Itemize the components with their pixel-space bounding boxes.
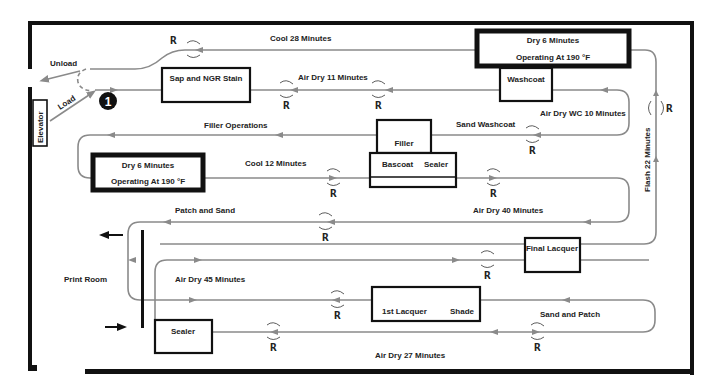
station-washcoat: Washcoat bbox=[500, 68, 552, 101]
rotation-marker: R bbox=[487, 169, 500, 200]
svg-text:R: R bbox=[270, 341, 277, 354]
rotation-marker: R bbox=[267, 323, 280, 354]
station-sealer-lower: Sealer bbox=[155, 320, 212, 353]
elevator: Elevator bbox=[33, 100, 47, 146]
station-bascoat-sealer: Bascoat Sealer bbox=[370, 153, 456, 187]
station-final-lacquer: Final Lacquer bbox=[525, 238, 580, 272]
svg-text:Dry 6 Minutes: Dry 6 Minutes bbox=[527, 36, 580, 45]
print-room: Print Room bbox=[64, 230, 144, 328]
rotation-marker: R bbox=[319, 213, 332, 244]
label-flash-22: Flash 22 Minutes bbox=[643, 127, 652, 192]
label-filler-operations: Filler Operations bbox=[204, 121, 268, 130]
finishing-line-diagram: Elevator bbox=[0, 0, 719, 391]
svg-text:Sealer: Sealer bbox=[171, 327, 195, 336]
label-air-dry-45: Air Dry 45 Minutes bbox=[175, 275, 246, 284]
station-filler: Filler bbox=[377, 120, 431, 153]
svg-text:R: R bbox=[490, 187, 497, 200]
start-marker-number: 1 bbox=[105, 95, 112, 109]
rotation-marker: R bbox=[531, 323, 544, 354]
label-air-dry-40: Air Dry 40 Minutes bbox=[473, 206, 544, 215]
svg-text:Dry 6 Minutes: Dry 6 Minutes bbox=[122, 161, 175, 170]
svg-text:R: R bbox=[529, 144, 536, 157]
label-air-dry-wc-10: Air Dry WC 10 Minutes bbox=[540, 109, 626, 118]
rotation-marker: R bbox=[649, 101, 674, 115]
station-oven-left: Dry 6 Minutes Operating At 190 °F bbox=[93, 155, 203, 190]
rotation-marker: R bbox=[280, 81, 293, 112]
label-sand-washcoat: Sand Washcoat bbox=[456, 120, 516, 129]
svg-text:R: R bbox=[375, 99, 382, 112]
svg-text:R: R bbox=[666, 102, 673, 115]
rotation-marker: R bbox=[372, 81, 385, 112]
start-marker: 1 bbox=[99, 92, 117, 110]
label-sand-and-patch: Sand and Patch bbox=[540, 310, 600, 319]
rotation-marker: R bbox=[526, 126, 539, 157]
label-patch-and-sand: Patch and Sand bbox=[175, 206, 235, 215]
rotation-marker: R bbox=[331, 291, 344, 322]
svg-text:Bascoat: Bascoat bbox=[382, 160, 413, 169]
station-first-lacquer-shade: 1st Lacquer Shade bbox=[372, 287, 480, 321]
svg-text:Washcoat: Washcoat bbox=[507, 75, 545, 84]
svg-text:Operating At 190 °F: Operating At 190 °F bbox=[516, 53, 590, 62]
svg-text:Final Lacquer: Final Lacquer bbox=[526, 244, 578, 253]
svg-text:R: R bbox=[334, 309, 341, 322]
load-unload-arrows: Unload Load bbox=[44, 59, 92, 121]
svg-text:R: R bbox=[170, 34, 177, 47]
label-cool-28: Cool 28 Minutes bbox=[270, 34, 332, 43]
label-air-dry-11: Air Dry 11 Minutes bbox=[298, 73, 368, 82]
svg-text:R: R bbox=[534, 341, 541, 354]
svg-text:Filler: Filler bbox=[394, 139, 413, 148]
print-room-label: Print Room bbox=[64, 275, 107, 284]
label-air-dry-27: Air Dry 27 Minutes bbox=[375, 351, 446, 360]
rotation-marker: R bbox=[481, 251, 494, 282]
svg-text:1st Lacquer: 1st Lacquer bbox=[382, 307, 427, 316]
rotation-marker: R bbox=[327, 169, 340, 200]
svg-text:Operating At 190 °F: Operating At 190 °F bbox=[111, 177, 185, 186]
station-oven-top: Dry 6 Minutes Operating At 190 °F bbox=[477, 31, 629, 66]
svg-text:R: R bbox=[283, 99, 290, 112]
svg-text:R: R bbox=[484, 269, 491, 282]
unload-label: Unload bbox=[50, 59, 77, 68]
svg-text:Shade: Shade bbox=[450, 307, 475, 316]
svg-text:Sap and NGR Stain: Sap and NGR Stain bbox=[170, 74, 243, 83]
elevator-label: Elevator bbox=[36, 111, 45, 143]
svg-text:R: R bbox=[330, 187, 337, 200]
station-sap-stain: Sap and NGR Stain bbox=[162, 68, 250, 102]
svg-text:Sealer: Sealer bbox=[424, 160, 448, 169]
label-cool-12: Cool 12 Minutes bbox=[245, 159, 307, 168]
svg-text:R: R bbox=[322, 231, 329, 244]
rotation-marker: R bbox=[170, 34, 200, 58]
